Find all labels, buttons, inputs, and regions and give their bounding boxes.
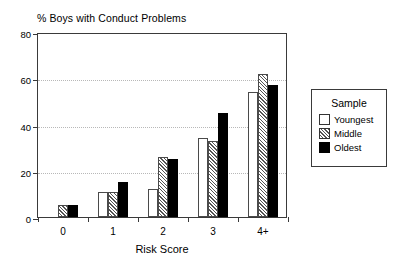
plot-area: 020406080 01234+ [37, 33, 287, 218]
y-tick-label-0: 0 [26, 214, 31, 225]
legend-items: YoungestMiddleOldest [312, 114, 386, 153]
legend-label-oldest: Oldest [334, 142, 361, 153]
bar-oldest-1 [118, 182, 128, 217]
bar-youngest-4+ [248, 92, 258, 217]
legend-label-middle: Middle [334, 128, 362, 139]
x-axis-label: Risk Score [37, 243, 287, 255]
bar-middle-1 [108, 192, 118, 217]
x-tick-mark-2 [138, 217, 139, 222]
x-tick-label-2: 2 [160, 226, 166, 237]
gridline-60 [38, 80, 286, 81]
bar-oldest-0 [68, 205, 78, 217]
x-tick-mark-end [288, 217, 289, 222]
bar-oldest-2 [168, 159, 178, 217]
legend-item-oldest[interactable]: Oldest [319, 142, 386, 153]
bar-chart-figure: % Boys with Conduct Problems 020406080 0… [0, 0, 397, 266]
y-tick-mark-60 [33, 80, 38, 81]
bar-middle-4+ [258, 74, 268, 217]
bar-oldest-3 [218, 113, 228, 217]
y-tick-label-40: 40 [20, 121, 31, 132]
chart-title: % Boys with Conduct Problems [37, 12, 186, 24]
y-tick-label-60: 60 [20, 75, 31, 86]
bar-oldest-4+ [268, 85, 278, 217]
legend-swatch-middle-icon [319, 128, 330, 139]
x-tick-mark-1 [88, 217, 89, 222]
bar-youngest-3 [198, 138, 208, 217]
bar-middle-3 [208, 141, 218, 217]
bar-youngest-1 [98, 192, 108, 217]
x-tick-mark-0 [38, 217, 39, 222]
legend-item-youngest[interactable]: Youngest [319, 114, 386, 125]
x-tick-label-3: 3 [210, 226, 216, 237]
bar-youngest-2 [148, 189, 158, 217]
y-tick-label-20: 20 [20, 167, 31, 178]
x-tick-mark-3 [188, 217, 189, 222]
bar-middle-0 [58, 205, 68, 217]
x-tick-label-0: 0 [60, 226, 66, 237]
x-tick-label-4+: 4+ [257, 226, 268, 237]
legend-title: Sample [312, 97, 386, 109]
x-tick-mark-4+ [238, 217, 239, 222]
y-tick-mark-40 [33, 127, 38, 128]
bar-middle-2 [158, 157, 168, 217]
x-tick-label-1: 1 [110, 226, 116, 237]
legend-swatch-oldest-icon [319, 142, 330, 153]
legend-label-youngest: Youngest [334, 114, 373, 125]
legend-item-middle[interactable]: Middle [319, 128, 386, 139]
legend-swatch-youngest-icon [319, 114, 330, 125]
y-tick-label-80: 80 [20, 29, 31, 40]
y-tick-mark-20 [33, 173, 38, 174]
y-tick-mark-80 [33, 34, 38, 35]
legend: Sample YoungestMiddleOldest [311, 89, 387, 167]
